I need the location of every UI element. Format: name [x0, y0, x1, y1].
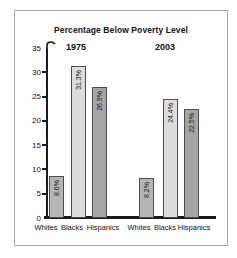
- bar-value-label: 22.5%: [188, 113, 195, 133]
- x-label-2003-hispanics: Hispanics: [172, 223, 216, 232]
- bar-1975-hispanics: 26.9%: [92, 87, 107, 218]
- y-axis-line: [46, 49, 48, 218]
- y-tick-label-5: 5: [19, 189, 41, 198]
- bar-value-label: 8.6%: [53, 180, 60, 196]
- bar-value-wrap: 8.6%: [50, 180, 63, 196]
- y-tick-label-15: 15: [19, 141, 41, 150]
- y-tick-label-10: 10: [19, 165, 41, 174]
- bar-value-wrap: 31.3%: [72, 70, 85, 90]
- bar-2003-hispanics: 22.5%: [184, 109, 199, 218]
- bar-value-wrap: 22.5%: [185, 113, 198, 133]
- poverty-chart-figure: Percentage Below Poverty Level 1975 2003…: [0, 0, 237, 258]
- chart-frame: Percentage Below Poverty Level 1975 2003…: [14, 10, 228, 246]
- y-tick-10: [42, 168, 46, 170]
- y-tick-label-20: 20: [19, 116, 41, 125]
- y-tick-25: [42, 96, 46, 98]
- y-tick-20: [42, 120, 46, 122]
- bar-value-label: 26.9%: [96, 91, 103, 111]
- y-tick-label-25: 25: [19, 92, 41, 101]
- bar-2003-whites: 8.2%: [139, 178, 154, 218]
- bar-1975-whites: 8.6%: [49, 176, 64, 218]
- bar-value-label: 8.2%: [143, 182, 150, 198]
- bar-value-wrap: 26.9%: [93, 91, 106, 111]
- plot-area: 051015202530358.6%31.3%26.9%WhitesBlacks…: [15, 11, 227, 245]
- bar-value-wrap: 8.2%: [140, 182, 153, 198]
- bar-1975-blacks: 31.3%: [71, 66, 86, 218]
- y-tick-label-30: 30: [19, 68, 41, 77]
- y-tick-label-0: 0: [19, 214, 41, 223]
- bar-value-label: 24.4%: [167, 103, 174, 123]
- y-tick-30: [42, 71, 46, 73]
- y-tick-label-35: 35: [19, 44, 41, 53]
- bar-2003-blacks: 24.4%: [163, 99, 178, 218]
- bar-value-wrap: 24.4%: [164, 103, 177, 123]
- bar-value-label: 31.3%: [75, 70, 82, 90]
- y-tick-15: [42, 144, 46, 146]
- y-tick-5: [42, 193, 46, 195]
